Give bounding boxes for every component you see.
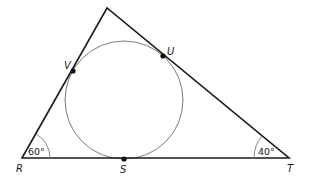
label-S: S <box>120 164 127 175</box>
point-S <box>121 156 126 161</box>
angle-label-R: 60° <box>28 146 45 157</box>
angle-label-T: 40° <box>258 146 275 157</box>
label-T: T <box>287 163 294 174</box>
label-R: R <box>16 163 23 174</box>
inscribed-circle <box>65 41 183 159</box>
label-V: V <box>64 60 72 71</box>
geometry-diagram: V U S R T 60° 40° <box>0 0 309 185</box>
point-U <box>160 53 165 58</box>
triangle-RAT <box>22 8 289 158</box>
point-V <box>70 68 75 73</box>
label-U: U <box>167 46 175 57</box>
